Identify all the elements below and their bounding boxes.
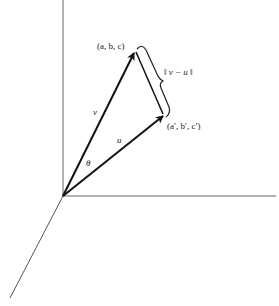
vector-label-v: v bbox=[93, 107, 97, 117]
tip-label-u: (a′, b′, c′) bbox=[167, 121, 200, 131]
vector-label-u: u bbox=[117, 135, 122, 145]
vector-u bbox=[63, 116, 163, 196]
tip-label-v: (a, b, c) bbox=[97, 41, 124, 51]
difference-segment bbox=[136, 52, 163, 114]
distance-brace bbox=[137, 46, 170, 117]
angle-label: θ bbox=[86, 158, 91, 168]
distance-label: ‖ v − u ‖ bbox=[164, 67, 193, 77]
vector-diagram: (a, b, c) (a′, b′, c′) v u θ ‖ v − u ‖ bbox=[0, 0, 279, 306]
x-axis bbox=[10, 196, 63, 298]
vector-v bbox=[63, 53, 134, 196]
